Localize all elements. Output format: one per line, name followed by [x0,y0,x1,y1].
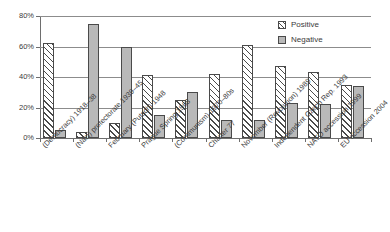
legend-item-positive[interactable]: Positive [278,18,374,31]
bar-positive[interactable] [43,43,54,138]
y-axis-tick-label: 60% [0,43,34,51]
chart-legend: Positive Negative [278,18,374,48]
hatched-swatch-icon [278,21,286,29]
x-axis-tick-mark [371,138,372,142]
y-axis-tick-label: 40% [0,73,34,81]
y-axis-tick-label: 20% [0,104,34,112]
gray-swatch-icon [278,36,286,44]
legend-item-negative[interactable]: Negative [278,33,374,46]
legend-label-negative: Negative [291,35,323,44]
bar-positive[interactable] [242,45,253,138]
bar-group [206,16,239,138]
y-axis-tick-label: 0% [0,134,34,142]
y-axis-tick-label: 80% [0,12,34,20]
legend-label-positive: Positive [291,20,319,29]
